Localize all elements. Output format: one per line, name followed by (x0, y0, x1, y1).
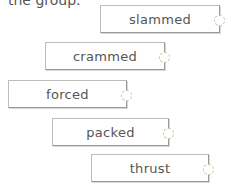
connector-handle-icon[interactable] (159, 52, 170, 63)
word-label: crammed (46, 43, 164, 69)
word-tile-slammed[interactable]: slammed (100, 5, 220, 33)
word-label: slammed (101, 6, 219, 32)
instruction-text: the group. (8, 0, 81, 8)
word-tile-crammed[interactable]: crammed (45, 42, 165, 70)
word-tile-thrust[interactable]: thrust (91, 154, 209, 182)
connector-handle-icon[interactable] (214, 15, 225, 26)
word-label: thrust (92, 155, 208, 181)
connector-handle-icon[interactable] (203, 164, 214, 175)
word-label: packed (53, 119, 168, 145)
word-tile-forced[interactable]: forced (8, 80, 127, 108)
word-tile-packed[interactable]: packed (52, 118, 169, 146)
connector-handle-icon[interactable] (163, 128, 174, 139)
connector-handle-icon[interactable] (121, 90, 132, 101)
word-label: forced (9, 81, 126, 107)
